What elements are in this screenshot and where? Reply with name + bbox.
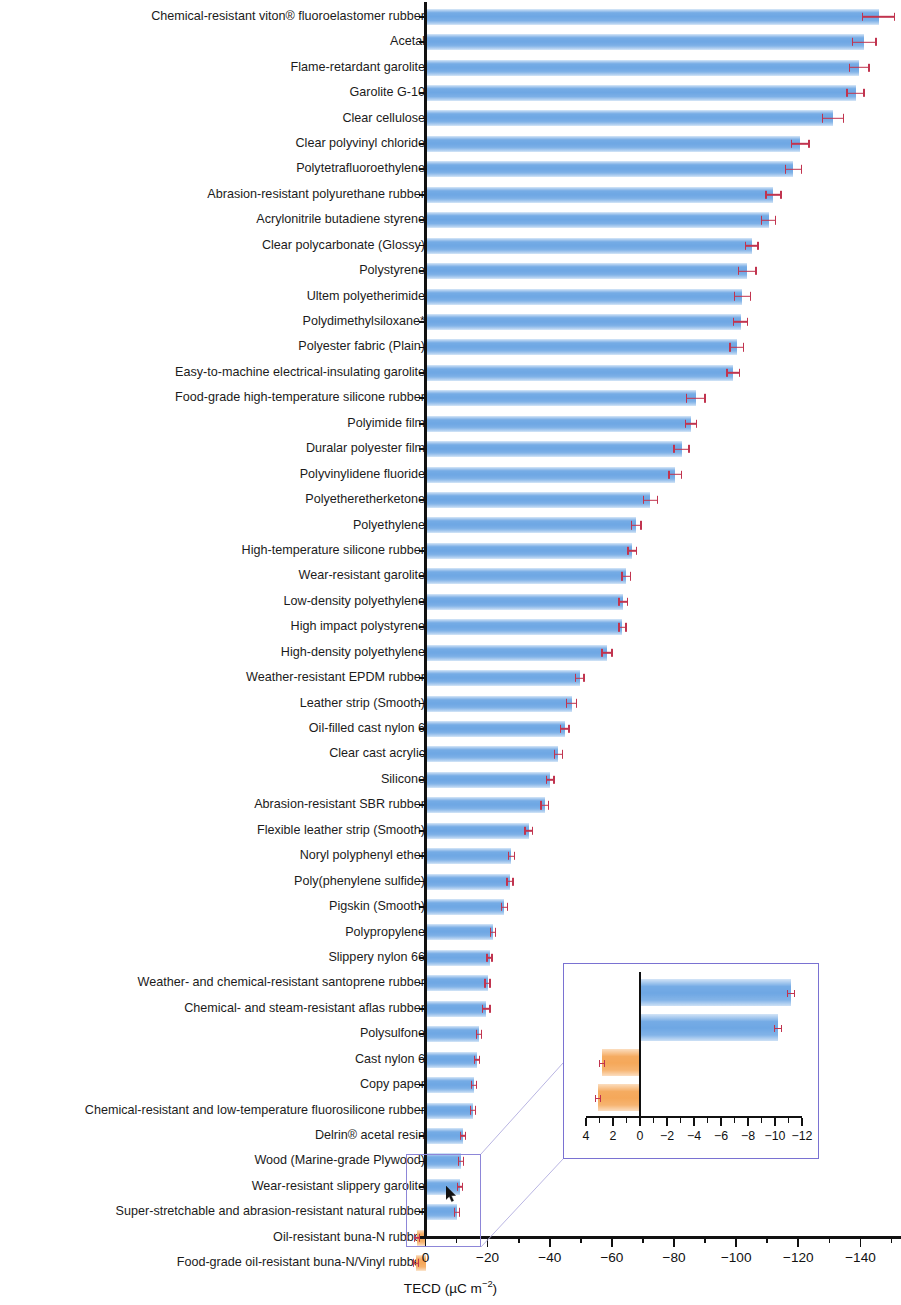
error-bar [765, 194, 781, 195]
error-bar [546, 779, 555, 780]
bar-row-label: Clear polyvinyl chloride [0, 137, 425, 151]
bar [426, 442, 682, 457]
error-bar [524, 830, 533, 831]
error-bar [540, 805, 549, 806]
bar [426, 671, 580, 686]
x-axis-tick-major [673, 1238, 675, 1247]
bar [426, 721, 565, 736]
bar-row-label: Copy paper [0, 1078, 425, 1092]
bar-row-label: Clear polycarbonate (Glossy) [0, 239, 425, 253]
inset-x-axis-tick-major [720, 1118, 722, 1126]
bar [426, 518, 637, 533]
inset-x-axis-tick-major [693, 1118, 695, 1126]
bar-row: Clear polyvinyl chloride [0, 131, 901, 156]
inset-x-axis-tick-label: 0 [637, 1129, 644, 1143]
error-bar [413, 1262, 419, 1263]
bar-row-label: Chemical-resistant and low-temperature f… [0, 1104, 425, 1118]
bar-row: Polytetrafluoroethylene [0, 157, 901, 182]
chart-page: Chemical-resistant viton® fluoroelastome… [0, 0, 901, 1305]
inset-error-bar [595, 1098, 601, 1099]
x-axis-tick-minor [518, 1238, 520, 1243]
bar-row-label: Chemical- and steam-resistant aflas rubb… [0, 1002, 425, 1016]
error-bar [822, 118, 844, 119]
error-bar [482, 1008, 491, 1009]
bar-row-label: Polypropylene [0, 926, 425, 940]
bar [426, 645, 607, 660]
bar [426, 35, 865, 50]
error-bar [862, 16, 896, 17]
bar-row: Polypropylene [0, 920, 901, 945]
bar [426, 620, 623, 635]
bar [426, 696, 572, 711]
error-bar [734, 296, 751, 297]
inset-x-axis-tick-minor [680, 1118, 682, 1123]
bar-row: Ultem polyetherimide [0, 284, 901, 309]
x-axis-title-text: TECD (µC m−2) [404, 1281, 497, 1296]
x-axis-tick-major [549, 1238, 551, 1247]
bar-row-label: Super-stretchable and abrasion-resistant… [0, 1205, 425, 1219]
error-bar [849, 67, 870, 68]
bar-row-label: Chemical-resistant viton® fluoroelastome… [0, 10, 425, 24]
bar-row-label: Wear-resistant slippery garolite [0, 1180, 425, 1194]
x-axis-tick-minor [829, 1238, 831, 1243]
x-axis-tick-label: −140 [845, 1250, 876, 1265]
inset-x-axis-tick-label: 2 [610, 1129, 617, 1143]
bar-row: Garolite G-10 [0, 80, 901, 105]
error-bar [745, 245, 759, 246]
bar-row: Leather strip (Smooth) [0, 691, 901, 716]
error-bar [726, 372, 740, 373]
inset-x-axis-tick-label: −12 [791, 1129, 812, 1143]
bar-row: Acrylonitrile butadiene styrene [0, 208, 901, 233]
bar-row-label: Abrasion-resistant SBR rubber [0, 798, 425, 812]
inset-x-axis-tick-minor [734, 1118, 736, 1123]
bar [426, 950, 490, 965]
error-bar [560, 728, 570, 729]
x-axis-tick-minor [704, 1238, 706, 1243]
bar-row-label: Oil-filled cast nylon 6 [0, 722, 425, 736]
bar-row: Oil-filled cast nylon 6 [0, 716, 901, 741]
bar-row-label: High-density polyethylene [0, 646, 425, 660]
bar-row: Duralar polyester film [0, 436, 901, 461]
error-bar [685, 423, 697, 424]
bar-row-label: Slippery nylon 66 [0, 951, 425, 965]
bar-row: Low-density polyethylene [0, 589, 901, 614]
bar-row-label: Wear-resistant garolite [0, 569, 425, 583]
x-axis-tick-major [797, 1238, 799, 1247]
x-axis-tick-label: −20 [476, 1250, 499, 1265]
bar-row: Clear cast acrylic [0, 742, 901, 767]
bar [426, 1103, 473, 1118]
bar [426, 314, 741, 329]
bar-row: Polydimethylsiloxane* [0, 309, 901, 334]
x-axis-tick-label: −40 [538, 1250, 561, 1265]
error-bar [729, 347, 744, 348]
inset-error-bar [787, 993, 795, 994]
inset-x-axis-tick-label: −4 [687, 1129, 701, 1143]
bar-row: Poly(phenylene sulfide) [0, 869, 901, 894]
error-bar [566, 703, 577, 704]
x-axis-tick-major [611, 1238, 613, 1247]
bar-row-label: Polytetrafluoroethylene [0, 162, 425, 176]
bar [426, 340, 737, 355]
error-bar [460, 1135, 466, 1136]
bar [426, 467, 676, 482]
bar [426, 874, 511, 889]
bar-row-label: Clear cast acrylic [0, 747, 425, 761]
x-axis-tick-minor [580, 1238, 582, 1243]
bar-row: Clear polycarbonate (Glossy) [0, 233, 901, 258]
error-bar [486, 957, 492, 958]
bar-row-label: Pigskin (Smooth) [0, 900, 425, 914]
bar-row-label: Weather- and chemical-resistant santopre… [0, 976, 425, 990]
bar-row-label: Polyester fabric (Plain) [0, 340, 425, 354]
x-axis-tick-label: 0 [422, 1250, 430, 1265]
bar-row-label: Poly(phenylene sulfide) [0, 875, 425, 889]
error-bar [621, 576, 631, 577]
x-axis-tick-minor [642, 1238, 644, 1243]
error-bar [631, 525, 642, 526]
bar [426, 391, 696, 406]
inset-x-axis-tick-minor [761, 1118, 763, 1123]
bar-row: High impact polystyrene [0, 615, 901, 640]
bar [426, 86, 856, 101]
inset-bar [640, 979, 791, 1006]
x-axis-tick-minor [891, 1238, 893, 1243]
x-axis-tick-major [860, 1238, 862, 1247]
